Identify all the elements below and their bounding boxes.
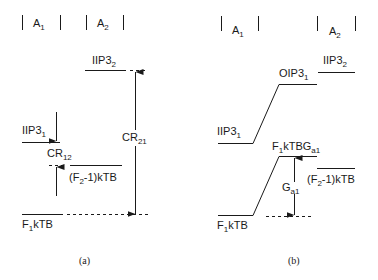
f1-ktb-label: F1kTB <box>22 218 53 233</box>
panel-b-labels: A1 A2 IIP32 OIP31 IIP31 F1kTBGa1 Ga1 (F2… <box>217 24 355 267</box>
caption-a: (a) <box>79 255 90 267</box>
b-f2-ktb-label: (F2-1)kTB <box>307 173 355 188</box>
iip3-1-label: IIP31 <box>22 124 47 139</box>
b-oip3-1-label: OIP31 <box>279 67 309 82</box>
a2-label: A2 <box>97 17 109 32</box>
b-a1-label: A1 <box>232 24 244 39</box>
b-f1ktbga1-label: F1kTBGa1 <box>272 140 321 155</box>
iip3-2-label: IIP32 <box>92 54 117 69</box>
panel-a <box>22 15 149 215</box>
b-f1ktb-to-gain <box>218 157 317 216</box>
cr12-label: CR12 <box>47 147 72 162</box>
b-iip3-1-label: IIP31 <box>217 125 242 140</box>
f2-ktb-label: (F2-1)kTB <box>69 171 117 186</box>
caption-b: (b) <box>288 255 300 267</box>
b-a2-label: A2 <box>329 25 341 40</box>
cr21-label: CR21 <box>122 131 147 146</box>
b-f1-ktb-label: F1kTB <box>217 219 248 234</box>
b-iip3-2-label: IIP32 <box>323 54 348 69</box>
noise-figure-diagram: A1 A2 IIP32 CR21 IIP31 CR12 (F2-1)kTB F1… <box>0 0 378 280</box>
a1-label: A1 <box>33 17 45 32</box>
ga1-label: Ga1 <box>282 181 300 196</box>
